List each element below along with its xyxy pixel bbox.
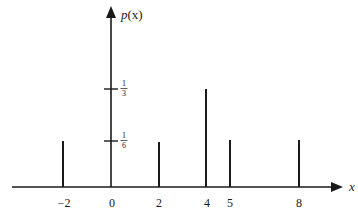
pmf-chart: x p(x) 1 3 1 6 −2 0 2 4 5 8 [0,0,358,220]
x-tick-label-5: 5 [227,196,233,210]
y-tick-label-one-sixth: 1 6 [121,131,128,150]
x-axis-arrow-icon [331,182,343,192]
x-tick-label-2: 2 [156,196,162,210]
y-axis-arrow-icon [106,6,116,18]
x-tick-label-4: 4 [204,196,210,210]
x-tick-label-neg2: −2 [58,196,71,210]
x-tick-label-8: 8 [296,196,302,210]
x-axis-label: x [348,179,355,194]
x-tick-label-0: 0 [109,196,115,210]
y-tick-label-one-third: 1 3 [121,79,128,98]
svg-text:6: 6 [122,141,126,150]
svg-text:3: 3 [122,89,126,98]
y-axis-label: p(x) [120,7,143,22]
svg-text:1: 1 [122,79,126,88]
svg-text:1: 1 [122,131,126,140]
y-axis-label-arg: (x) [128,7,143,22]
